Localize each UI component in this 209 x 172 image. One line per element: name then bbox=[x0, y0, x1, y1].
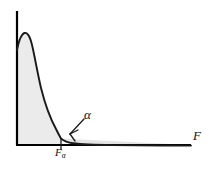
x-axis-label: F bbox=[193, 129, 201, 142]
critical-value-label: Fα bbox=[55, 147, 66, 160]
distribution-plot bbox=[0, 0, 209, 172]
shaded-body-region bbox=[17, 33, 61, 145]
critical-value-symbol: F bbox=[55, 146, 62, 158]
f-distribution-figure: F α Fα bbox=[0, 0, 209, 172]
critical-value-subscript: α bbox=[62, 151, 66, 160]
alpha-leader-line bbox=[70, 119, 84, 134]
alpha-area-label: α bbox=[84, 108, 91, 121]
